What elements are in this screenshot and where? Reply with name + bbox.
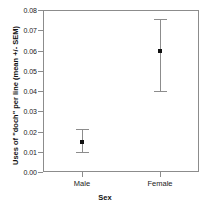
y-tick-mark [38, 30, 43, 31]
plot-area [43, 10, 199, 172]
y-tick-label: 0.02 [23, 128, 37, 135]
y-tick-label: 0.04 [23, 88, 37, 95]
error-bar-cap-lower [154, 91, 167, 92]
y-tick-label: 0.01 [23, 148, 37, 155]
x-tick-label: Female [147, 180, 172, 188]
y-tick-mark [38, 10, 43, 11]
y-tick-mark [38, 152, 43, 153]
y-axis-title: Uses of "doch" per line (mean +/- SEM) [11, 11, 20, 181]
chart-figure: Uses of "doch" per line (mean +/- SEM) 0… [0, 0, 210, 210]
y-tick-label: 0.05 [23, 67, 37, 74]
x-tick-mark [160, 172, 161, 177]
x-tick-label: Male [74, 180, 90, 188]
y-tick-mark [38, 91, 43, 92]
y-tick-mark [38, 172, 43, 173]
x-tick-mark [82, 172, 83, 177]
y-tick-label: 0.00 [23, 169, 37, 176]
error-bar-cap-lower [76, 152, 89, 153]
y-tick-label: 0.06 [23, 47, 37, 54]
x-axis-title: Sex [0, 194, 210, 202]
error-bar-line [160, 19, 161, 91]
error-bar-cap-upper [154, 19, 167, 20]
y-tick-label: 0.07 [23, 27, 37, 34]
y-tick-mark [38, 51, 43, 52]
data-point-marker [158, 49, 162, 53]
y-tick-label: 0.03 [23, 108, 37, 115]
y-tick-label: 0.08 [23, 7, 37, 14]
data-point-marker [80, 140, 84, 144]
y-tick-mark [38, 71, 43, 72]
y-tick-mark [38, 111, 43, 112]
error-bar-cap-upper [76, 129, 89, 130]
y-tick-mark [38, 132, 43, 133]
